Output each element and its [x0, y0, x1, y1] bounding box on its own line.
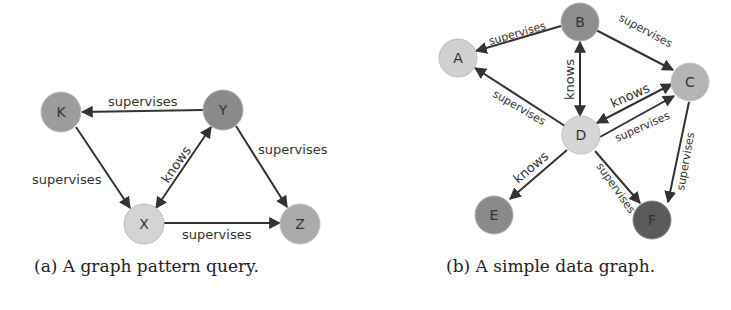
node-k: K	[41, 92, 81, 132]
edge-y-supervises-k	[82, 110, 203, 112]
svg-text:K: K	[56, 104, 66, 120]
figure-a-graph-pattern-query: supervises supervises knows supervises s…	[32, 90, 328, 244]
figure-b-simple-data-graph: supervises supervises knows supervises k…	[439, 3, 709, 239]
edge-k-supervises-x	[76, 127, 130, 208]
edge-label: supervises	[108, 94, 178, 109]
caption-figure-b: (b) A simple data graph.	[446, 256, 655, 276]
edge-label: knows	[562, 59, 577, 100]
node-x: X	[124, 204, 164, 244]
svg-text:Z: Z	[295, 216, 305, 232]
edge-label: supervises	[491, 87, 549, 128]
edge-label: supervises	[258, 142, 328, 157]
node-y: Y	[203, 90, 243, 130]
svg-text:X: X	[139, 216, 149, 232]
caption-figure-a: (a) A graph pattern query.	[34, 256, 259, 276]
svg-text:B: B	[575, 14, 585, 30]
edge-label: supervises	[594, 160, 639, 216]
svg-text:F: F	[648, 212, 656, 228]
edge-label: supervises	[487, 19, 547, 48]
svg-text:Y: Y	[218, 102, 228, 118]
node-e: E	[475, 196, 513, 234]
node-c: C	[671, 63, 709, 101]
svg-text:D: D	[576, 127, 587, 143]
edge-d-supervises-a	[475, 68, 565, 126]
edge-label: supervises	[674, 131, 697, 191]
svg-text:E: E	[490, 207, 499, 223]
node-a: A	[439, 39, 477, 77]
svg-text:C: C	[685, 74, 695, 90]
node-f: F	[633, 201, 671, 239]
svg-text:A: A	[453, 50, 463, 66]
edge-y-supervises-z	[236, 126, 287, 207]
node-d: D	[562, 116, 600, 154]
node-z: Z	[280, 204, 320, 244]
edge-label: supervises	[32, 172, 102, 187]
edge-label: supervises	[182, 227, 252, 242]
node-b: B	[561, 3, 599, 41]
